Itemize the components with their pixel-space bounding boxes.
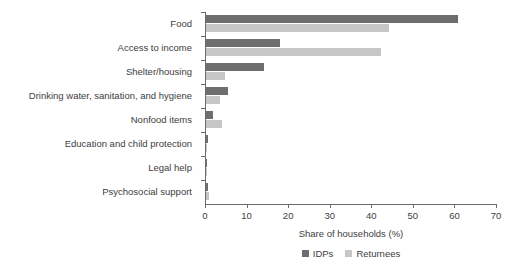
x-axis-tick (288, 204, 289, 208)
bar-returnees-psychosocial-support (206, 192, 209, 200)
bar-returnees-access-to-income (206, 48, 381, 56)
x-axis-tick (454, 204, 455, 208)
bar-idps-shelter-housing (206, 63, 264, 71)
bar-row (205, 12, 496, 36)
bar-row (205, 156, 496, 180)
y-axis-label: Drinking water, sanitation, and hygiene (0, 90, 192, 101)
legend-swatch-icon (302, 250, 309, 257)
bar-rows (205, 12, 496, 204)
chart-legend: IDPsReturnees (205, 248, 497, 259)
x-axis-tick-label: 50 (398, 210, 428, 221)
x-axis-tick-label: 0 (190, 210, 220, 221)
x-axis-tick-label: 30 (315, 210, 345, 221)
bar-idps-access-to-income (206, 39, 280, 47)
x-axis-tick-label: 60 (439, 210, 469, 221)
y-axis-tick (201, 84, 205, 85)
bar-returnees-food (206, 24, 389, 32)
x-axis-tick (247, 204, 248, 208)
y-axis-tick (201, 12, 205, 13)
bar-returnees-education-and-child-protection (206, 144, 207, 152)
bar-row (205, 108, 496, 132)
y-axis-label: Psychosocial support (0, 186, 192, 197)
x-axis-tick-label: 10 (232, 210, 262, 221)
bar-idps-psychosocial-support (206, 183, 208, 191)
x-axis-tick (371, 204, 372, 208)
y-axis-category-labels: FoodAccess to incomeShelter/housingDrink… (0, 12, 200, 204)
y-axis-tick (201, 36, 205, 37)
x-axis-ticks: 010203040506070 (205, 204, 505, 224)
bar-row (205, 132, 496, 156)
x-axis-tick (205, 204, 206, 208)
bar-returnees-nonfood-items (206, 120, 222, 128)
x-axis-tick (330, 204, 331, 208)
y-axis-label: Food (0, 18, 192, 29)
bar-idps-legal-help (206, 159, 207, 167)
bar-returnees-shelter-housing (206, 72, 225, 80)
bar-returnees-drinking-water-sanitation-and-hygiene (206, 96, 220, 104)
y-axis-label: Legal help (0, 162, 192, 173)
bar-idps-drinking-water-sanitation-and-hygiene (206, 87, 228, 95)
legend-item-idps[interactable]: IDPs (302, 248, 334, 259)
y-axis-tick (201, 108, 205, 109)
y-axis-label: Education and child protection (0, 138, 192, 149)
x-axis-tick-label: 20 (273, 210, 303, 221)
y-axis-tick (201, 60, 205, 61)
y-axis-label: Shelter/housing (0, 66, 192, 77)
legend-label: IDPs (313, 248, 334, 259)
bar-idps-food (206, 15, 458, 23)
bar-row (205, 36, 496, 60)
x-axis-title: Share of households (%) (205, 228, 497, 239)
bar-row (205, 84, 496, 108)
x-axis-tick (413, 204, 414, 208)
bar-idps-education-and-child-protection (206, 135, 208, 143)
y-axis-tick (201, 132, 205, 133)
bar-chart: FoodAccess to incomeShelter/housingDrink… (0, 0, 517, 274)
bar-row (205, 180, 496, 204)
y-axis-tick (201, 156, 205, 157)
bar-row (205, 60, 496, 84)
bar-returnees-legal-help (206, 168, 207, 176)
y-axis-label: Access to income (0, 42, 192, 53)
x-axis-tick-label: 70 (481, 210, 511, 221)
y-axis-tick (201, 180, 205, 181)
legend-swatch-icon (345, 250, 352, 257)
legend-label: Returnees (356, 248, 400, 259)
bar-idps-nonfood-items (206, 111, 213, 119)
plot-area (205, 12, 496, 204)
legend-item-returnees[interactable]: Returnees (345, 248, 400, 259)
x-axis-tick (496, 204, 497, 208)
y-axis-label: Nonfood items (0, 114, 192, 125)
x-axis-tick-label: 40 (356, 210, 386, 221)
